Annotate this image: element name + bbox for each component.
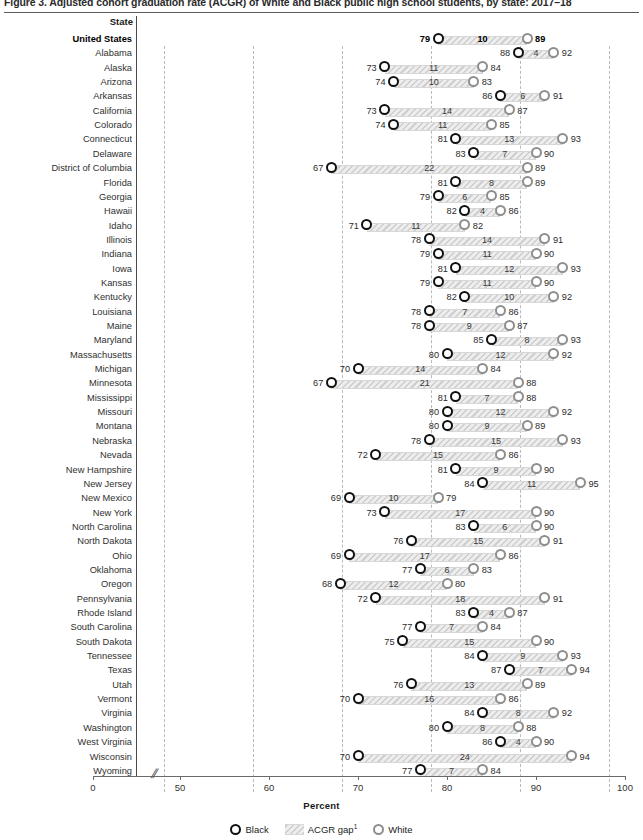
white-marker-icon[interactable] bbox=[495, 693, 506, 704]
black-marker-icon[interactable] bbox=[388, 76, 399, 87]
white-marker-icon[interactable] bbox=[504, 104, 515, 115]
white-marker-icon[interactable] bbox=[522, 33, 533, 44]
legend-item-gap[interactable]: ACGR gap1 bbox=[285, 823, 358, 835]
black-marker-icon[interactable] bbox=[326, 162, 337, 173]
black-marker-icon[interactable] bbox=[459, 205, 470, 216]
black-marker-icon[interactable] bbox=[406, 535, 417, 546]
tick-label-90: 90 bbox=[531, 782, 542, 793]
white-marker-icon[interactable] bbox=[522, 162, 533, 173]
white-marker-icon[interactable] bbox=[531, 635, 542, 646]
white-marker-icon[interactable] bbox=[477, 363, 488, 374]
axis-break-icon: // bbox=[152, 766, 176, 782]
white-marker-icon[interactable] bbox=[468, 563, 479, 574]
tick-50 bbox=[180, 776, 181, 780]
tick-label-80: 80 bbox=[442, 782, 453, 793]
white-marker-icon[interactable] bbox=[548, 707, 559, 718]
white-marker-icon[interactable] bbox=[477, 764, 488, 775]
black-marker-icon[interactable] bbox=[353, 363, 364, 374]
white-marker-icon[interactable] bbox=[486, 190, 497, 201]
white-marker-icon[interactable] bbox=[566, 750, 577, 761]
white-marker-icon[interactable] bbox=[468, 76, 479, 87]
white-marker-icon[interactable] bbox=[575, 477, 586, 488]
black-marker-icon[interactable] bbox=[486, 334, 497, 345]
black-marker-icon[interactable] bbox=[504, 664, 515, 675]
black-marker-icon[interactable] bbox=[495, 90, 506, 101]
white-marker-icon[interactable] bbox=[548, 47, 559, 58]
white-marker-icon[interactable] bbox=[539, 592, 550, 603]
white-marker-icon[interactable] bbox=[522, 420, 533, 431]
black-marker-icon[interactable] bbox=[424, 434, 435, 445]
black-marker-icon[interactable] bbox=[424, 305, 435, 316]
black-marker-icon[interactable] bbox=[477, 650, 488, 661]
black-marker-icon bbox=[230, 824, 241, 835]
white-marker-icon[interactable] bbox=[513, 377, 524, 388]
legend-label-white: White bbox=[388, 824, 412, 835]
black-marker-icon[interactable] bbox=[442, 406, 453, 417]
white-marker-icon[interactable] bbox=[531, 276, 542, 287]
legend-item-black[interactable]: Black bbox=[230, 824, 268, 835]
black-marker-icon[interactable] bbox=[344, 492, 355, 503]
white-marker-icon[interactable] bbox=[557, 334, 568, 345]
white-marker-icon[interactable] bbox=[539, 535, 550, 546]
black-marker-icon[interactable] bbox=[442, 420, 453, 431]
white-marker-icon[interactable] bbox=[531, 248, 542, 259]
tick-label-60: 60 bbox=[264, 782, 275, 793]
black-marker-icon[interactable] bbox=[415, 621, 426, 632]
white-marker-icon[interactable] bbox=[486, 119, 497, 130]
black-marker-icon[interactable] bbox=[433, 248, 444, 259]
white-marker-icon[interactable] bbox=[557, 262, 568, 273]
figure-title: Figure 3. Adjusted cohort graduation rat… bbox=[4, 0, 640, 8]
black-marker-icon[interactable] bbox=[353, 693, 364, 704]
white-marker-icon[interactable] bbox=[557, 650, 568, 661]
black-marker-icon[interactable] bbox=[477, 707, 488, 718]
title-divider bbox=[4, 12, 639, 13]
white-marker-icon[interactable] bbox=[539, 233, 550, 244]
white-marker-icon[interactable] bbox=[477, 61, 488, 72]
white-marker-icon[interactable] bbox=[557, 133, 568, 144]
white-marker-icon[interactable] bbox=[442, 578, 453, 589]
white-marker-icon[interactable] bbox=[531, 736, 542, 747]
white-marker-icon[interactable] bbox=[557, 434, 568, 445]
white-marker-icon[interactable] bbox=[522, 176, 533, 187]
white-marker-icon[interactable] bbox=[477, 621, 488, 632]
black-marker-icon[interactable] bbox=[370, 449, 381, 460]
white-marker-icon[interactable] bbox=[531, 147, 542, 158]
black-marker-icon[interactable] bbox=[442, 348, 453, 359]
white-marker-icon[interactable] bbox=[522, 678, 533, 689]
black-marker-icon[interactable] bbox=[495, 736, 506, 747]
white-marker-icon[interactable] bbox=[539, 90, 550, 101]
black-marker-icon[interactable] bbox=[442, 721, 453, 732]
white-marker-icon[interactable] bbox=[459, 219, 470, 230]
black-marker-icon[interactable] bbox=[344, 549, 355, 560]
white-marker-icon[interactable] bbox=[495, 305, 506, 316]
legend-item-white[interactable]: White bbox=[373, 824, 412, 835]
black-marker-icon[interactable] bbox=[513, 47, 524, 58]
black-marker-icon[interactable] bbox=[335, 578, 346, 589]
white-marker-icon[interactable] bbox=[504, 320, 515, 331]
white-marker-icon[interactable] bbox=[548, 291, 559, 302]
white-marker-icon[interactable] bbox=[495, 205, 506, 216]
black-marker-icon[interactable] bbox=[353, 750, 364, 761]
black-marker-icon[interactable] bbox=[468, 607, 479, 618]
white-marker-icon[interactable] bbox=[531, 463, 542, 474]
black-marker-icon[interactable] bbox=[424, 320, 435, 331]
gap-band-icon bbox=[285, 824, 304, 835]
white-marker-icon[interactable] bbox=[531, 506, 542, 517]
tick-100 bbox=[625, 776, 626, 780]
white-marker-icon[interactable] bbox=[548, 348, 559, 359]
legend: Black ACGR gap1 White bbox=[0, 820, 643, 838]
white-marker-icon[interactable] bbox=[495, 449, 506, 460]
black-marker-icon[interactable] bbox=[433, 276, 444, 287]
white-marker-icon[interactable] bbox=[566, 664, 577, 675]
white-marker-icon[interactable] bbox=[504, 607, 515, 618]
black-marker-icon[interactable] bbox=[433, 190, 444, 201]
black-marker-icon[interactable] bbox=[388, 119, 399, 130]
black-marker-icon[interactable] bbox=[326, 377, 337, 388]
white-marker-icon[interactable] bbox=[531, 520, 542, 531]
black-marker-icon[interactable] bbox=[433, 33, 444, 44]
white-marker-icon[interactable] bbox=[548, 406, 559, 417]
white-marker-icon[interactable] bbox=[513, 721, 524, 732]
white-marker-icon[interactable] bbox=[433, 492, 444, 503]
white-marker-icon[interactable] bbox=[513, 391, 524, 402]
white-marker-icon[interactable] bbox=[495, 549, 506, 560]
